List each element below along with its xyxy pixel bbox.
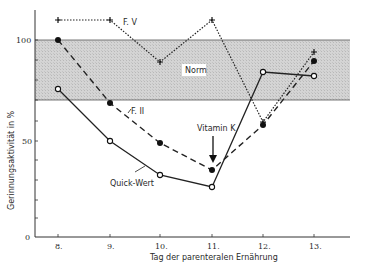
- vitamin-k-label: Vitamin K: [197, 124, 236, 133]
- y-tick-100: 100: [16, 36, 31, 45]
- x-tick-13: 13.: [309, 242, 322, 251]
- quick-label: Quick-Wert: [110, 179, 154, 188]
- arrow-down-icon: [209, 155, 217, 163]
- norm-label: Norm: [185, 66, 207, 75]
- x-tick-11: 11.: [207, 242, 220, 251]
- y-tick-50: 50: [22, 137, 32, 146]
- x-axis-label: Tag der parenteralen Ernährung: [149, 253, 278, 262]
- vitamin-k-annotation: Vitamin K: [197, 124, 236, 163]
- norm-band: Norm: [35, 40, 350, 100]
- x-tick-10: 10.: [155, 242, 168, 251]
- x-tick-9: 9.: [107, 242, 115, 251]
- y-tick-0: 0: [25, 233, 30, 242]
- y-axis-label: Gerinnungsaktivität in %: [7, 110, 16, 210]
- coagulation-chart: Norm 100 50 0 8.: [0, 0, 375, 272]
- x-tick-12: 12.: [258, 242, 271, 251]
- fii-label: F. II: [131, 107, 144, 116]
- fv-label: F. V: [123, 18, 137, 27]
- x-tick-8: 8.: [55, 242, 63, 251]
